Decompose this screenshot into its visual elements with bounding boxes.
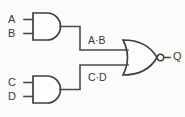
input-label-b: B <box>8 27 15 39</box>
input-label-d: D <box>8 90 16 102</box>
and-gate-1-body <box>33 13 61 40</box>
nor-gate <box>123 40 170 75</box>
nor-gate-body <box>123 40 157 75</box>
inversion-bubble-icon <box>157 54 163 60</box>
input-label-a: A <box>8 13 16 25</box>
input-label-c: C <box>8 76 16 88</box>
logic-circuit-diagram: A B C D A·B C·D Q <box>0 0 185 117</box>
and-gate-2 <box>24 76 61 103</box>
output-label-q: Q <box>173 50 182 62</box>
circuit-canvas: A B C D A·B C·D Q <box>0 0 185 117</box>
net-label-ab: A·B <box>88 34 106 46</box>
and-gate-2-body <box>33 76 61 103</box>
net-label-cd: C·D <box>88 71 107 83</box>
and-gate-1 <box>24 13 61 40</box>
